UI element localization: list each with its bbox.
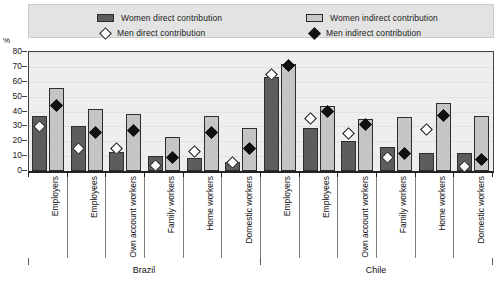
bar-women-indirect [88, 109, 103, 171]
marker-men-direct [342, 127, 355, 140]
legend-label-women-indirect: Women indirect contribution [330, 13, 438, 23]
country-separator [260, 258, 261, 265]
country-label: Brazil [28, 265, 260, 275]
marker-men-direct [420, 123, 433, 136]
category-label: Own account workers [129, 176, 138, 262]
category-label: Own account workers [361, 176, 370, 262]
bar-group [261, 52, 300, 171]
bar-women-direct [264, 77, 279, 171]
category-separator [144, 172, 145, 258]
y-axis-tick-mark [22, 125, 27, 126]
bar-group [222, 52, 261, 171]
category-separator [67, 172, 68, 258]
category-separator [453, 172, 454, 258]
category-tick [221, 172, 222, 177]
category-separator [221, 172, 222, 258]
plot-area [28, 51, 494, 172]
category-label: Employees [90, 176, 99, 262]
legend-label-men-indirect: Men indirect contribution [326, 28, 421, 38]
bar-group [300, 52, 339, 171]
category-separator [337, 172, 338, 258]
y-axis-unit-label: % [3, 36, 10, 45]
category-label: Home workers [438, 176, 447, 262]
chart-figure: Women direct contribution Men direct con… [0, 0, 502, 296]
bar-group [145, 52, 184, 171]
category-tick [105, 172, 106, 177]
legend-item-women-indirect: Women indirect contribution [306, 11, 438, 25]
legend-item-men-indirect: Men indirect contribution [306, 26, 421, 40]
legend-label-men-direct: Men direct contribution [117, 28, 205, 38]
category-label: Employers [51, 176, 60, 262]
country-axis: BrazilChile [28, 258, 494, 280]
bar-women-indirect [397, 117, 412, 171]
category-tick [28, 172, 29, 177]
category-label: Family workers [167, 176, 176, 262]
legend-item-men-direct: Men direct contribution [97, 26, 205, 40]
category-label: Domestic workers [477, 176, 486, 262]
bar-group [68, 52, 107, 171]
category-tick [415, 172, 416, 177]
legend-label-women-direct: Women direct contribution [121, 13, 222, 23]
category-tick [299, 172, 300, 177]
category-axis: EmployersEmployeesOwn account workersFam… [28, 172, 494, 264]
marker-men-direct [188, 145, 201, 158]
category-tick [183, 172, 184, 177]
category-label: Domestic workers [245, 176, 254, 262]
category-tick [337, 172, 338, 177]
legend-swatch-light-bar-icon [306, 14, 323, 22]
y-axis: 01020304050607080 [0, 51, 28, 174]
bar-group [377, 52, 416, 171]
bar-women-indirect [204, 116, 219, 171]
legend-swatch-open-diamond-icon [99, 27, 112, 40]
marker-men-direct [304, 113, 317, 126]
category-label: Family workers [399, 176, 408, 262]
bar-women-direct [187, 158, 202, 171]
y-axis-tick-mark [22, 96, 27, 97]
category-tick [260, 172, 261, 177]
country-separator [28, 258, 29, 265]
category-label: Employers [283, 176, 292, 262]
bar-women-direct [109, 152, 124, 171]
bar-women-indirect [281, 64, 296, 171]
chart-legend: Women direct contribution Men direct con… [28, 4, 494, 38]
category-separator [415, 172, 416, 258]
y-axis-tick-mark [22, 170, 27, 171]
y-axis-tick-mark [22, 111, 27, 112]
y-axis-tick-mark [22, 155, 27, 156]
category-tick [492, 172, 493, 177]
bar-group [106, 52, 145, 171]
category-separator [299, 172, 300, 258]
category-separator [105, 172, 106, 258]
category-tick [67, 172, 68, 177]
y-axis-tick-mark [22, 66, 27, 67]
bar-women-direct [419, 153, 434, 171]
bar-group [184, 52, 223, 171]
y-axis-tick-mark [22, 81, 27, 82]
category-separator [260, 172, 261, 258]
category-separator [183, 172, 184, 258]
legend-item-women-direct: Women direct contribution [97, 11, 222, 25]
category-tick [453, 172, 454, 177]
bar-women-direct [341, 141, 356, 171]
country-separator [492, 258, 493, 265]
category-label: Home workers [206, 176, 215, 262]
bar-group [416, 52, 455, 171]
legend-swatch-dark-bar-icon [97, 14, 114, 22]
category-separator [376, 172, 377, 258]
y-axis-tick-mark [22, 140, 27, 141]
bar-women-direct [303, 128, 318, 171]
bar-group [338, 52, 377, 171]
bar-women-indirect [126, 114, 141, 171]
country-label: Chile [260, 265, 492, 275]
y-axis-tick-mark [22, 51, 27, 52]
category-label: Employees [322, 176, 331, 262]
category-tick [376, 172, 377, 177]
legend-swatch-solid-diamond-icon [308, 27, 321, 40]
category-tick [144, 172, 145, 177]
bar-group [29, 52, 68, 171]
bar-group [454, 52, 493, 171]
